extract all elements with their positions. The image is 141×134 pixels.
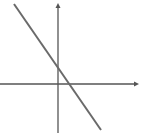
x-axis-arrow-icon	[134, 82, 139, 87]
y-axis-arrow-icon	[56, 3, 61, 8]
plot-area	[0, 0, 141, 134]
coordinate-plane	[0, 0, 141, 134]
